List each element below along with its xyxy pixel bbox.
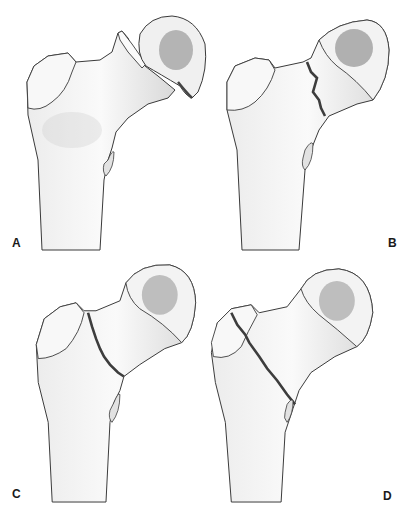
panel-b: B [207,0,414,253]
panel-label-b: B [388,236,397,250]
panel-a: A [0,0,207,253]
panel-d: D [207,253,414,506]
femur-illustration-a [0,0,207,253]
panel-c: C [0,253,207,506]
femur-illustration-b [207,0,414,253]
panel-label-c: C [12,487,21,501]
femur-illustration-c [0,253,207,506]
panel-label-a: A [12,236,21,250]
femur-illustration-d [207,253,414,506]
panel-label-d: D [383,489,392,503]
